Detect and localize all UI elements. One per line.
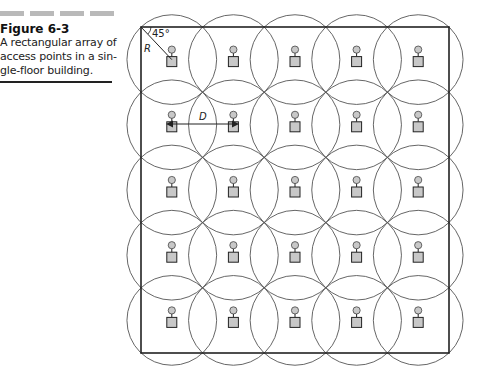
access-point-icon: [352, 176, 362, 197]
radius-annotation: 45° R: [141, 27, 172, 60]
distance-label: D: [199, 111, 207, 122]
access-point-icon: [290, 111, 300, 132]
access-point-icon: [413, 242, 423, 263]
access-point-icon: [352, 242, 362, 263]
access-point-icon: [413, 46, 423, 67]
access-point-icon: [228, 307, 238, 328]
access-point-icon: [413, 176, 423, 197]
access-point-icon: [167, 242, 177, 263]
access-point-icon: [167, 307, 177, 328]
access-point-icon: [228, 242, 238, 263]
access-point-icon: [290, 242, 300, 263]
access-point-diagram: 45° R D: [0, 0, 487, 385]
access-point-icon: [413, 111, 423, 132]
access-point-icon: [167, 176, 177, 197]
access-point-icon: [290, 307, 300, 328]
access-point-icon: [413, 307, 423, 328]
access-point-icon: [290, 46, 300, 67]
access-point-icon: [228, 46, 238, 67]
access-point-icon: [352, 46, 362, 67]
access-point-icon: [352, 111, 362, 132]
access-point-icon: [290, 176, 300, 197]
radius-label: R: [144, 43, 151, 54]
access-point-icon: [228, 176, 238, 197]
angle-label: 45°: [152, 28, 170, 39]
access-point-icon: [352, 307, 362, 328]
